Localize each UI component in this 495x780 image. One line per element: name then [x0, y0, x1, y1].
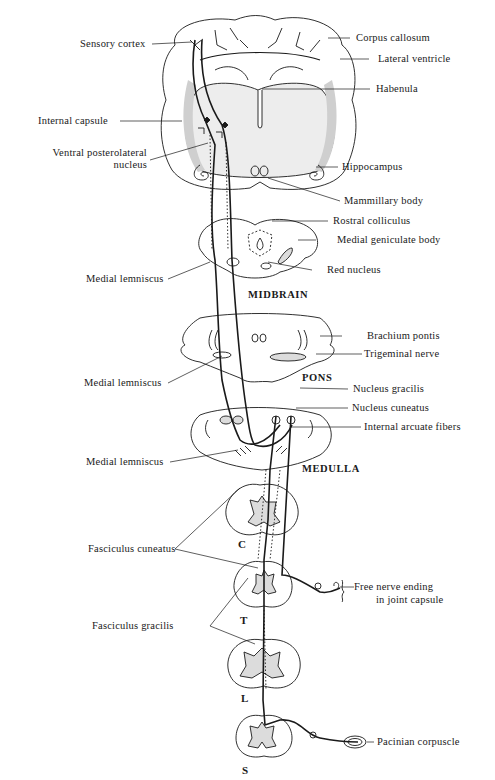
label-vpl-line2: nucleus — [25, 159, 147, 171]
label-nucleus-gracilis: Nucleus gracilis — [353, 383, 424, 395]
label-hippocampus: Hippocampus — [342, 161, 403, 173]
label-fasciculus-gracilis: Fasciculus gracilis — [92, 620, 174, 632]
section-title-midbrain: MIDBRAIN — [248, 289, 308, 300]
label-pacinian-corpuscle: Pacinian corpuscle — [377, 736, 460, 748]
label-medial-geniculate-body: Medial geniculate body — [337, 234, 441, 246]
spinal-level-s: S — [242, 764, 248, 776]
label-medial-lemniscus-pons: Medial lemniscus — [84, 377, 162, 389]
label-trigeminal-nerve: Trigeminal nerve — [364, 348, 439, 360]
label-medial-lemniscus-medulla: Medial lemniscus — [86, 456, 164, 468]
brain-section — [161, 16, 356, 190]
label-sensory-cortex: Sensory cortex — [80, 38, 146, 50]
label-red-nucleus: Red nucleus — [327, 264, 381, 276]
label-habenula: Habenula — [376, 83, 418, 95]
label-free-nerve-ending-line2: in joint capsule — [376, 594, 443, 606]
spinal-level-t: T — [240, 614, 247, 626]
free-nerve-ending-icon — [334, 580, 344, 602]
label-vpl-line1: Ventral posterolateral — [25, 147, 147, 159]
label-brachium-pontis: Brachium pontis — [367, 330, 440, 342]
label-lateral-ventricle: Lateral ventricle — [378, 53, 450, 65]
spinal-level-c: C — [238, 538, 246, 550]
label-fasciculus-cuneatus: Fasciculus cuneatus — [88, 543, 176, 555]
label-mammillary-body: Mammillary body — [344, 195, 423, 207]
label-corpus-callosum: Corpus callosum — [356, 32, 430, 44]
label-nucleus-cuneatus: Nucleus cuneatus — [352, 402, 429, 414]
label-rostral-colliculus: Rostral colliculus — [333, 215, 410, 227]
label-medial-lemniscus-midbrain: Medial lemniscus — [86, 273, 164, 285]
label-free-nerve-ending-line1: Free nerve ending — [354, 581, 433, 593]
label-internal-arcuate-fibers: Internal arcuate fibers — [364, 421, 461, 433]
spinal-level-l: L — [241, 692, 248, 704]
medulla-section — [191, 408, 331, 471]
label-internal-capsule: Internal capsule — [38, 115, 108, 127]
section-title-pons: PONS — [302, 372, 332, 383]
section-title-medulla: MEDULLA — [302, 463, 360, 474]
midbrain-section — [199, 219, 318, 278]
